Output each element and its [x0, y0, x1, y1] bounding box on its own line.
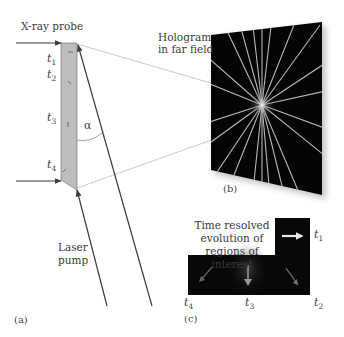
time-label-t3: t3: [47, 111, 56, 126]
xray-probe-label: X-ray probe: [21, 20, 83, 32]
laser-pump-label-line1: Laser: [58, 241, 88, 253]
angle-alpha-label: α: [84, 120, 91, 132]
roi-time-label-t3: t3: [245, 296, 254, 311]
hologram-title-line1: Hologram: [158, 31, 211, 43]
hologram-title-line2: in far field: [158, 43, 213, 55]
hologram-panel: [200, 0, 330, 220]
roi-caption-line2: evolution of: [190, 232, 274, 245]
panel-b-letter: (b): [223, 183, 237, 194]
roi-time-label-t4: t4: [184, 296, 193, 311]
laser-pump-label-line2: pump: [58, 254, 88, 266]
roi-time-label-t1: t1: [314, 228, 323, 243]
angle-arc: [77, 133, 102, 141]
time-label-t2: t2: [47, 68, 56, 83]
roi-time-label-t2: t2: [314, 296, 323, 311]
panel-a-letter: (a): [14, 314, 28, 325]
laser-beams: [77, 45, 152, 306]
sample-strip: [61, 43, 77, 190]
time-label-t1: t1: [47, 52, 56, 67]
roi-caption-line3: regions of interest: [190, 245, 274, 271]
roi-caption: Time resolved evolution of regions of in…: [190, 219, 274, 271]
panel-c-letter: (c): [184, 313, 197, 324]
roi-caption-line1: Time resolved: [190, 219, 274, 232]
time-label-t4: t4: [47, 158, 56, 173]
